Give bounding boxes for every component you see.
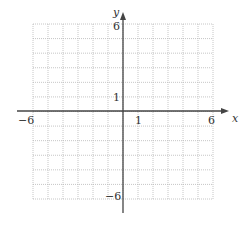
y-axis-arrow-icon xyxy=(120,12,126,20)
y-tick-1: 1 xyxy=(113,91,120,104)
y-tick-neg6: −6 xyxy=(105,190,121,203)
x-tick-6: 6 xyxy=(208,114,215,127)
coordinate-plane: y x 6 1 −6 −6 1 6 xyxy=(0,0,243,225)
y-tick-6: 6 xyxy=(113,20,120,33)
x-tick-1: 1 xyxy=(135,114,142,127)
x-axis-arrow-icon xyxy=(221,108,229,114)
y-axis-label: y xyxy=(112,6,120,19)
x-tick-neg6: −6 xyxy=(18,114,34,127)
x-axis-label: x xyxy=(232,112,239,125)
